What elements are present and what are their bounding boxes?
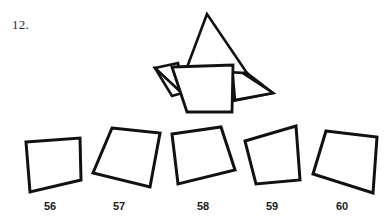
option-label-59[interactable]: 59 (258, 201, 286, 212)
quadrilateral-60[interactable] (313, 131, 377, 193)
quadrilateral-56[interactable] (26, 138, 81, 192)
figure-canvas (0, 0, 391, 223)
option-label-60[interactable]: 60 (328, 201, 356, 212)
central-quad-shape (172, 65, 233, 112)
figure-stage (0, 0, 391, 223)
option-label-58[interactable]: 58 (189, 201, 217, 212)
quadrilateral-57[interactable] (93, 128, 160, 187)
option-label-57[interactable]: 57 (105, 201, 133, 212)
quadrilateral-59[interactable] (245, 126, 300, 184)
option-label-56[interactable]: 56 (36, 201, 64, 212)
prompt-figure (155, 14, 273, 112)
quadrilateral-58[interactable] (172, 127, 235, 184)
answer-options (26, 126, 377, 193)
